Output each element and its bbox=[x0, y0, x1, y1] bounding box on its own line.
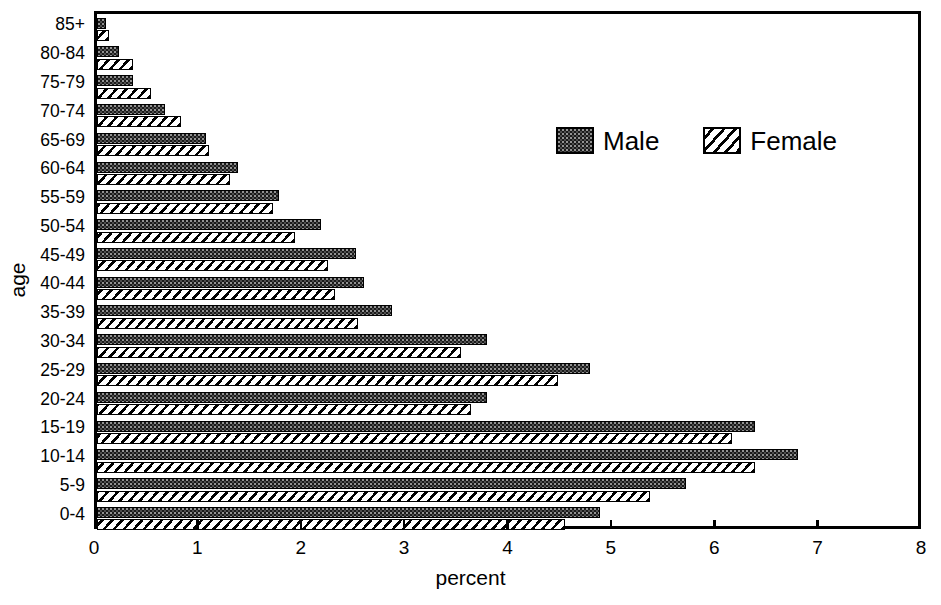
bar-group-80-84 bbox=[97, 43, 918, 72]
x-tick-label-7: 7 bbox=[812, 537, 823, 559]
y-axis-label-25-29: 25-29 bbox=[40, 362, 85, 380]
bar-group-85plus bbox=[97, 14, 918, 43]
bar-female-10-14 bbox=[97, 462, 755, 473]
bars-layer bbox=[97, 14, 918, 526]
x-tick-1 bbox=[196, 520, 199, 529]
x-tick-4 bbox=[506, 520, 509, 529]
bar-male-10-14 bbox=[97, 449, 798, 460]
x-tick-label-4: 4 bbox=[502, 537, 513, 559]
bar-female-35-39 bbox=[97, 318, 358, 329]
x-tick-label-5: 5 bbox=[606, 537, 617, 559]
bar-group-70-74 bbox=[97, 100, 918, 129]
x-tick-6 bbox=[713, 520, 716, 529]
x-tick-label-8: 8 bbox=[916, 537, 927, 559]
y-axis-label-80-84: 80-84 bbox=[40, 45, 85, 63]
bar-male-25-29 bbox=[97, 363, 590, 374]
bar-female-5-9 bbox=[97, 491, 650, 502]
bar-group-75-79 bbox=[97, 72, 918, 101]
bar-group-50-54 bbox=[97, 215, 918, 244]
bar-male-80-84 bbox=[97, 46, 119, 57]
bar-female-80-84 bbox=[97, 59, 133, 70]
legend-entry-male: Male bbox=[556, 127, 659, 154]
y-axis-label-60-64: 60-64 bbox=[40, 160, 85, 178]
bar-group-60-64 bbox=[97, 158, 918, 187]
x-axis-ticks: 012345678 bbox=[94, 529, 921, 541]
bar-male-5-9 bbox=[97, 478, 686, 489]
y-axis-label-15-19: 15-19 bbox=[40, 419, 85, 437]
bar-female-40-44 bbox=[97, 289, 335, 300]
legend-label-female: Female bbox=[750, 128, 837, 154]
population-pyramid-chart: age 85+80-8475-7970-7465-6960-6455-5950-… bbox=[0, 0, 941, 605]
bar-female-70-74 bbox=[97, 116, 181, 127]
y-axis-label-30-34: 30-34 bbox=[40, 333, 85, 351]
bar-male-40-44 bbox=[97, 277, 364, 288]
bar-female-30-34 bbox=[97, 347, 461, 358]
bar-male-65-69 bbox=[97, 133, 206, 144]
y-axis-label-10-14: 10-14 bbox=[40, 448, 85, 466]
bar-female-75-79 bbox=[97, 88, 151, 99]
y-axis-label-0-4: 0-4 bbox=[60, 506, 85, 524]
legend-entry-female: Female bbox=[703, 127, 837, 154]
bar-female-55-59 bbox=[97, 203, 273, 214]
bar-male-30-34 bbox=[97, 334, 487, 345]
x-tick-label-1: 1 bbox=[192, 537, 203, 559]
x-tick-label-2: 2 bbox=[295, 537, 306, 559]
y-axis-label-45-49: 45-49 bbox=[40, 247, 85, 265]
bar-male-45-49 bbox=[97, 248, 356, 259]
y-axis-category-labels: 85+80-8475-7970-7465-6960-6455-5950-5445… bbox=[0, 11, 88, 529]
x-tick-label-6: 6 bbox=[709, 537, 720, 559]
y-axis-label-85plus: 85+ bbox=[55, 16, 85, 34]
bar-male-50-54 bbox=[97, 219, 321, 230]
y-axis-label-35-39: 35-39 bbox=[40, 304, 85, 322]
x-tick-3 bbox=[403, 520, 406, 529]
x-tick-7 bbox=[816, 520, 819, 529]
y-axis-label-50-54: 50-54 bbox=[40, 218, 85, 236]
bar-male-15-19 bbox=[97, 421, 755, 432]
chart-legend: Male Female bbox=[556, 127, 837, 154]
bar-male-20-24 bbox=[97, 392, 487, 403]
bar-group-25-29 bbox=[97, 359, 918, 388]
y-axis-label-75-79: 75-79 bbox=[40, 74, 85, 92]
x-tick-label-3: 3 bbox=[399, 537, 410, 559]
bar-female-25-29 bbox=[97, 375, 558, 386]
x-axis-title: percent bbox=[0, 566, 941, 590]
y-axis-label-65-69: 65-69 bbox=[40, 132, 85, 150]
bar-group-5-9 bbox=[97, 474, 918, 503]
bar-group-55-59 bbox=[97, 187, 918, 216]
plot-area bbox=[94, 11, 921, 529]
bar-group-35-39 bbox=[97, 302, 918, 331]
legend-swatch-female-icon bbox=[703, 127, 741, 154]
legend-swatch-male-icon bbox=[556, 127, 594, 154]
bar-female-45-49 bbox=[97, 260, 328, 271]
x-tick-label-0: 0 bbox=[89, 537, 100, 559]
bar-male-75-79 bbox=[97, 75, 133, 86]
bar-female-65-69 bbox=[97, 145, 209, 156]
y-axis-label-20-24: 20-24 bbox=[40, 391, 85, 409]
bar-female-15-19 bbox=[97, 433, 732, 444]
x-tick-5 bbox=[610, 520, 613, 529]
bar-male-0-4 bbox=[97, 507, 600, 518]
bar-male-35-39 bbox=[97, 305, 392, 316]
bar-male-60-64 bbox=[97, 162, 238, 173]
bar-group-15-19 bbox=[97, 417, 918, 446]
x-tick-2 bbox=[300, 520, 303, 529]
bar-group-40-44 bbox=[97, 273, 918, 302]
legend-label-male: Male bbox=[603, 128, 659, 154]
y-axis-label-5-9: 5-9 bbox=[60, 477, 85, 495]
bar-male-85plus bbox=[97, 18, 106, 29]
bar-group-30-34 bbox=[97, 331, 918, 360]
bar-male-55-59 bbox=[97, 190, 279, 201]
bar-female-60-64 bbox=[97, 174, 230, 185]
bar-group-10-14 bbox=[97, 446, 918, 475]
y-axis-label-55-59: 55-59 bbox=[40, 189, 85, 207]
bar-female-85plus bbox=[97, 30, 109, 41]
bar-female-20-24 bbox=[97, 404, 471, 415]
bar-group-45-49 bbox=[97, 244, 918, 273]
y-axis-label-40-44: 40-44 bbox=[40, 275, 85, 293]
bar-male-70-74 bbox=[97, 104, 165, 115]
bar-group-20-24 bbox=[97, 388, 918, 417]
y-axis-label-70-74: 70-74 bbox=[40, 103, 85, 121]
bar-female-50-54 bbox=[97, 232, 295, 243]
